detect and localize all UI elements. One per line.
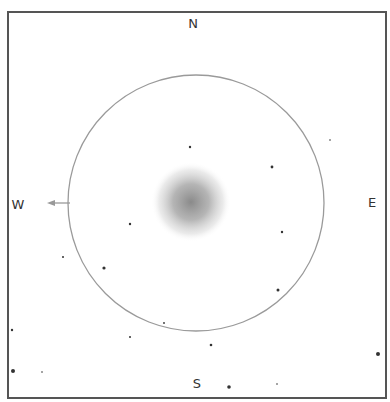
south-label: S xyxy=(193,377,201,390)
star xyxy=(163,322,165,324)
motion-arrow xyxy=(47,200,70,206)
star xyxy=(41,371,43,373)
star xyxy=(227,385,231,389)
deep-sky-object xyxy=(151,162,231,242)
star xyxy=(129,223,131,225)
star xyxy=(129,336,131,338)
star xyxy=(11,369,15,373)
star xyxy=(210,344,213,347)
star xyxy=(277,289,280,292)
star xyxy=(62,256,64,258)
star xyxy=(329,139,331,141)
star xyxy=(276,383,278,385)
star xyxy=(271,166,274,169)
star xyxy=(281,231,283,233)
star xyxy=(11,329,13,331)
finder-chart xyxy=(0,0,390,402)
star xyxy=(102,266,105,269)
star xyxy=(376,352,380,356)
star xyxy=(189,146,191,148)
north-label: N xyxy=(188,17,198,30)
west-label: W xyxy=(12,198,25,211)
east-label: E xyxy=(368,196,376,209)
